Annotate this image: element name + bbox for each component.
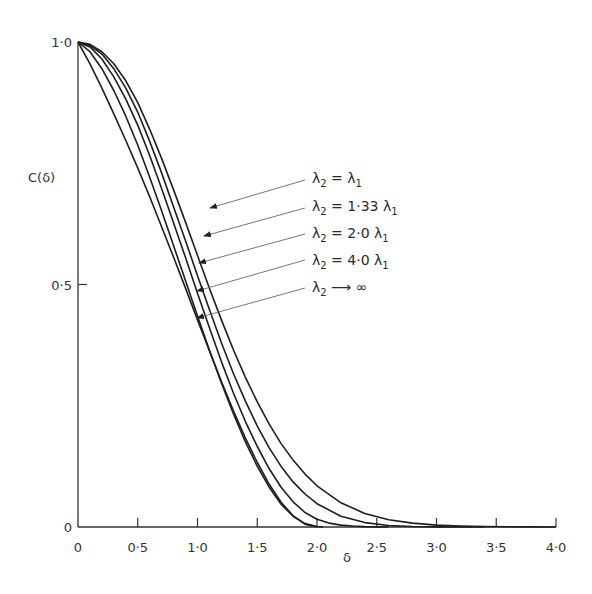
x-tick-label: 0	[74, 540, 82, 555]
x-tick-label: 2·0	[307, 540, 328, 555]
x-tick-label: 1·5	[247, 540, 268, 555]
x-tick-label: 4·0	[546, 540, 567, 555]
leader-arrow	[210, 180, 305, 208]
legend-label-series-2: λ2 = 1·33 λ1	[312, 198, 398, 217]
curve-series-2	[78, 42, 484, 527]
x-tick-label: 3·5	[486, 540, 507, 555]
y-tick-label: 0	[64, 520, 72, 535]
x-tick-label: 0·5	[127, 540, 148, 555]
leader-arrow	[199, 234, 305, 263]
legend-label-series-3: λ2 = 2·0 λ1	[312, 225, 389, 244]
x-tick-label: 2·5	[366, 540, 387, 555]
y-axis-title: C(δ)	[28, 170, 55, 185]
y-tick-label: 0·5	[51, 278, 72, 293]
legend-label-series-4: λ2 = 4·0 λ1	[312, 252, 389, 271]
y-tick-label: 1·0	[51, 35, 72, 50]
x-axis-title: δ	[343, 550, 351, 565]
leader-arrow	[197, 288, 305, 318]
leader-arrow	[197, 260, 305, 291]
legend-label-series-1: λ2 = λ1	[312, 170, 362, 189]
legend-annotations: λ2 = λ1λ2 = 1·33 λ1λ2 = 2·0 λ1λ2 = 4·0 λ…	[197, 170, 398, 318]
leader-arrow	[204, 208, 305, 236]
chart-figure: 00·51·01·52·02·53·03·54·000·51·0 λ2 = λ1…	[0, 0, 592, 594]
curve-series-5	[78, 42, 317, 527]
x-tick-label: 3·0	[426, 540, 447, 555]
x-tick-label: 1·0	[187, 540, 208, 555]
legend-label-series-5: λ2 ⟶ ∞	[312, 279, 367, 298]
